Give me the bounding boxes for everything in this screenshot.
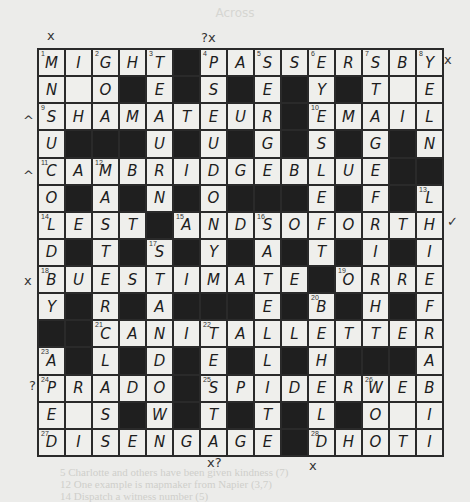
grid-cell[interactable]: E [417, 267, 442, 292]
grid-cell[interactable]: O [336, 213, 361, 238]
grid-cell[interactable]: S [282, 50, 307, 75]
grid-cell[interactable]: R [390, 267, 415, 292]
grid-cell[interactable]: A [93, 186, 118, 211]
grid-cell[interactable]: 8Y [417, 50, 442, 75]
grid-cell[interactable] [390, 77, 415, 102]
grid-cell[interactable]: 5S [255, 50, 280, 75]
grid-cell[interactable]: S [93, 213, 118, 238]
grid-cell[interactable]: 19O [336, 267, 361, 292]
grid-cell[interactable]: E [390, 321, 415, 346]
grid-cell[interactable]: R [363, 267, 388, 292]
grid-cell[interactable]: U [66, 267, 91, 292]
grid-cell[interactable]: R [147, 159, 172, 184]
grid-cell[interactable]: A [93, 104, 118, 129]
grid-cell[interactable]: A [228, 267, 253, 292]
grid-cell[interactable]: A [255, 240, 280, 265]
grid-cell[interactable]: E [309, 321, 334, 346]
grid-cell[interactable]: A [66, 159, 91, 184]
grid-cell[interactable]: E [363, 159, 388, 184]
grid-cell[interactable]: 15A [174, 213, 199, 238]
grid-cell[interactable]: 20B [309, 294, 334, 319]
grid-cell[interactable]: M [201, 267, 226, 292]
grid-cell[interactable]: Y [309, 77, 334, 102]
grid-cell[interactable]: 27D [39, 430, 64, 455]
grid-cell[interactable]: 14L [39, 213, 64, 238]
grid-cell[interactable]: I [66, 430, 91, 455]
grid-cell[interactable]: M [336, 104, 361, 129]
grid-cell[interactable]: 17S [147, 240, 172, 265]
grid-cell[interactable]: F [363, 186, 388, 211]
grid-cell[interactable]: R [363, 213, 388, 238]
grid-cell[interactable]: 22T [201, 321, 226, 346]
grid-cell[interactable]: A [120, 321, 145, 346]
grid-cell[interactable]: A [147, 294, 172, 319]
grid-cell[interactable]: D [228, 213, 253, 238]
grid-cell[interactable]: L [417, 104, 442, 129]
grid-cell[interactable]: 6E [309, 50, 334, 75]
grid-cell[interactable]: D [147, 348, 172, 373]
grid-cell[interactable]: A [228, 50, 253, 75]
grid-cell[interactable]: T [255, 267, 280, 292]
grid-cell[interactable]: 2G [93, 50, 118, 75]
grid-cell[interactable]: P [228, 376, 253, 401]
grid-cell[interactable]: H [309, 348, 334, 373]
grid-cell[interactable]: D [39, 240, 64, 265]
grid-cell[interactable]: T [147, 267, 172, 292]
grid-cell[interactable] [66, 403, 91, 428]
grid-cell[interactable]: T [93, 240, 118, 265]
grid-cell[interactable]: T [309, 240, 334, 265]
grid-cell[interactable]: E [255, 159, 280, 184]
grid-cell[interactable]: L [282, 321, 307, 346]
grid-cell[interactable]: B [120, 159, 145, 184]
grid-cell[interactable]: I [417, 240, 442, 265]
grid-cell[interactable]: H [363, 294, 388, 319]
grid-cell[interactable]: B [282, 159, 307, 184]
grid-cell[interactable]: S [93, 430, 118, 455]
grid-cell[interactable]: T [390, 430, 415, 455]
grid-cell[interactable]: H [120, 50, 145, 75]
grid-cell[interactable]: E [255, 77, 280, 102]
grid-cell[interactable]: T [363, 77, 388, 102]
grid-cell[interactable]: S [309, 131, 334, 156]
grid-cell[interactable]: F [417, 294, 442, 319]
grid-cell[interactable]: R [66, 376, 91, 401]
grid-cell[interactable]: L [255, 321, 280, 346]
grid-cell[interactable]: U [201, 131, 226, 156]
grid-cell[interactable]: I [174, 159, 199, 184]
grid-cell[interactable]: L [255, 348, 280, 373]
grid-cell[interactable]: E [120, 430, 145, 455]
grid-cell[interactable]: 28D [309, 430, 334, 455]
grid-cell[interactable]: 4P [201, 50, 226, 75]
grid-cell[interactable]: 13L [417, 186, 442, 211]
grid-cell[interactable]: H [336, 430, 361, 455]
grid-cell[interactable]: S [201, 77, 226, 102]
grid-cell[interactable]: L [309, 159, 334, 184]
grid-cell[interactable]: W [147, 403, 172, 428]
grid-cell[interactable]: N [39, 77, 64, 102]
grid-cell[interactable]: R [255, 104, 280, 129]
grid-cell[interactable]: D [120, 376, 145, 401]
grid-cell[interactable]: E [390, 376, 415, 401]
grid-cell[interactable]: E [147, 77, 172, 102]
grid-cell[interactable]: 10E [309, 104, 334, 129]
grid-cell[interactable]: I [255, 376, 280, 401]
grid-cell[interactable]: E [255, 430, 280, 455]
grid-cell[interactable]: T [363, 321, 388, 346]
grid-cell[interactable]: U [147, 131, 172, 156]
grid-cell[interactable]: 24P [39, 376, 64, 401]
grid-cell[interactable]: A [417, 348, 442, 373]
grid-cell[interactable]: I [390, 104, 415, 129]
grid-cell[interactable]: R [93, 294, 118, 319]
grid-cell[interactable]: D [201, 159, 226, 184]
grid-cell[interactable]: R [336, 376, 361, 401]
grid-cell[interactable]: N [147, 186, 172, 211]
grid-cell[interactable]: R [417, 321, 442, 346]
grid-cell[interactable]: N [147, 321, 172, 346]
grid-cell[interactable]: 1M [39, 50, 64, 75]
grid-cell[interactable]: Y [201, 240, 226, 265]
grid-cell[interactable]: U [39, 131, 64, 156]
grid-cell[interactable]: A [201, 430, 226, 455]
grid-cell[interactable]: 12M [93, 159, 118, 184]
grid-cell[interactable]: 9S [39, 104, 64, 129]
grid-cell[interactable]: 21C [93, 321, 118, 346]
